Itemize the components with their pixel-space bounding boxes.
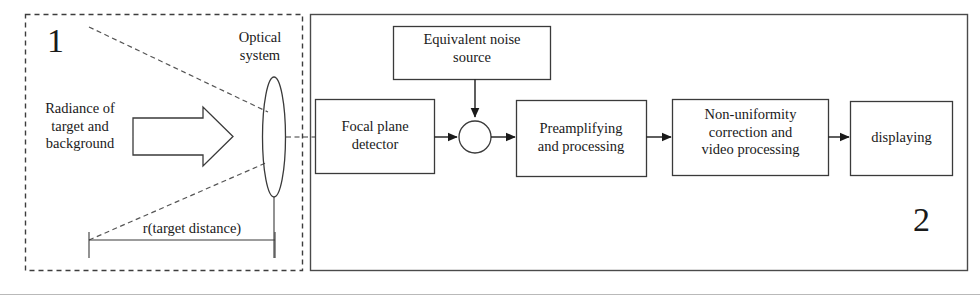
displaying-label: displaying (851, 129, 952, 147)
target-distance-label: r(target distance) (112, 220, 272, 238)
panel-1-number: 1 (47, 24, 83, 58)
focal-plane-detector-label: Focal plane detector (316, 118, 434, 153)
radiance-block-arrow-icon (133, 107, 233, 166)
radiance-source-label: Radiance of target and background (25, 100, 135, 153)
non-uniformity-correction-label: Non-uniformity correction and video proc… (673, 106, 828, 159)
figure-canvas: 1 2 Radiance of target and background Op… (0, 0, 980, 295)
summing-junction-node[interactable] (459, 121, 491, 153)
optical-system-label: Optical system (219, 29, 301, 64)
panel-2-number: 2 (913, 203, 949, 237)
preamplifying-and-processing-label: Preamplifying and processing (514, 120, 648, 155)
lens-ellipse-icon (263, 77, 286, 197)
equivalent-noise-source-label: Equivalent noise source (394, 31, 550, 66)
